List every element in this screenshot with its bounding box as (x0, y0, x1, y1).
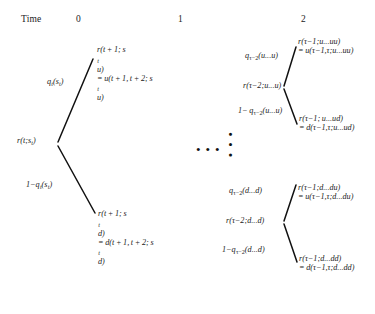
time-column-0: 0 (76, 14, 81, 25)
branch-lower-right-down (284, 224, 297, 262)
probability-down-lower-right: 1−qτ−2(d...d) (222, 245, 265, 255)
branch-left-down (58, 146, 95, 213)
node-dd-line1: r(τ−1;d...dd) (299, 254, 354, 263)
branch-lower-right-up (284, 185, 296, 221)
node-ud-line1: r(τ−1; u...ud) (299, 114, 354, 123)
node-uu-line1: r(τ−1;u...uu) (298, 37, 353, 46)
branch-upper-right-up (284, 47, 296, 86)
node-uu-line2: = u(τ−1,τ;u...uu) (298, 46, 353, 55)
node-ud-line2: = d(τ−1,τ;u...ud) (299, 123, 354, 132)
probability-down-upper-right: 1− qτ−2(u...u) (238, 106, 282, 116)
probability-down-left: 1−qt(st) (26, 180, 52, 190)
node-up-left: r(t + 1; stu) = u(t + 1, t + 2; stu) (97, 45, 153, 102)
branch-left-up (58, 59, 93, 142)
vertical-ellipsis: • • • (226, 132, 233, 159)
node-root: r(t;st) (17, 136, 36, 146)
time-axis-label: Time (21, 14, 42, 25)
branch-upper-right-down (284, 89, 297, 124)
horizontal-ellipsis: • • • (196, 143, 221, 158)
node-root-upper-right: r(τ−2;u...u) (243, 81, 281, 90)
node-du-line1: r(τ−1;d...du) (298, 183, 353, 192)
node-up-left-line1: r(t + 1; stu) (97, 45, 153, 74)
node-dd: r(τ−1;d...dd) = d(τ−1,τ;d...dd) (299, 254, 354, 272)
node-du: r(τ−1;d...du) = u(τ−1,τ;d...du) (298, 183, 353, 201)
time-column-1: 1 (178, 14, 183, 25)
probability-up-upper-right: qτ−2(u...u) (245, 51, 278, 61)
node-down-left-line1: r(t + 1; std) (98, 209, 154, 238)
node-ud: r(τ−1; u...ud) = d(τ−1,τ;u...ud) (299, 114, 354, 132)
time-column-2: 2 (301, 14, 306, 25)
node-root-lower-right: r(τ−2;d...d) (226, 216, 264, 225)
node-down-left-line2: = d(t + 1, t + 2; std) (98, 238, 154, 267)
node-up-left-line2: = u(t + 1, t + 2; stu) (97, 74, 153, 103)
node-down-left: r(t + 1; std) = d(t + 1, t + 2; std) (98, 209, 154, 266)
probability-up-lower-right: qτ−2(d...d) (229, 186, 262, 196)
node-uu: r(τ−1;u...uu) = u(τ−1,τ;u...uu) (298, 37, 353, 55)
node-du-line2: = u(τ−1,τ;d...du) (298, 192, 353, 201)
probability-up-left: qt(st) (47, 77, 64, 87)
node-dd-line2: = d(τ−1,τ;d...dd) (299, 263, 354, 272)
